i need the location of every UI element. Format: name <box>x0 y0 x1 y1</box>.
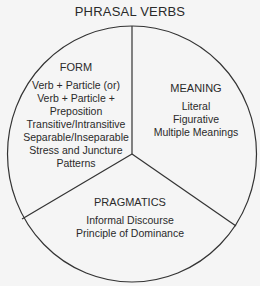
list-item: Verb + Particle (or) <box>14 79 138 92</box>
section-form: FORM Verb + Particle (or) Verb + Particl… <box>14 61 138 170</box>
list-item: Preposition <box>14 105 138 118</box>
section-heading: PRAGMATICS <box>40 196 220 209</box>
list-item: Principle of Dominance <box>40 227 220 240</box>
section-heading: MEANING <box>140 82 252 95</box>
list-item: Figurative <box>140 113 252 126</box>
list-item: Separable/Inseparable <box>14 131 138 144</box>
section-meaning: MEANING Literal Figurative Multiple Mean… <box>140 82 252 139</box>
list-item: Verb + Particle + <box>14 92 138 105</box>
section-pragmatics: PRAGMATICS Informal Discourse Principle … <box>40 196 220 240</box>
list-item: Informal Discourse <box>40 214 220 227</box>
list-item: Literal <box>140 100 252 113</box>
list-item: Stress and Juncture <box>14 144 138 157</box>
list-item: Multiple Meanings <box>140 126 252 139</box>
section-heading: FORM <box>14 61 138 74</box>
list-item: Patterns <box>14 157 138 170</box>
list-item: Transitive/Intransitive <box>14 118 138 131</box>
